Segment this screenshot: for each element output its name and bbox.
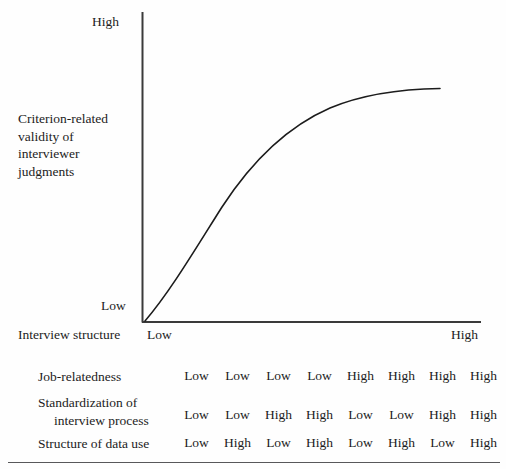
- row-label-line1: Standardization of: [38, 395, 137, 410]
- y-axis-low-label: Low: [101, 297, 126, 314]
- x-axis-title: Interview structure: [18, 326, 120, 343]
- cell: High: [299, 435, 340, 451]
- table-row: Standardization of interview process Low…: [0, 398, 506, 428]
- cell: Low: [299, 368, 340, 384]
- cell: Low: [422, 435, 463, 451]
- cell: Low: [258, 435, 299, 451]
- cell: High: [217, 435, 258, 451]
- row-label-structure-of-data-use: Structure of data use: [38, 435, 183, 453]
- bottom-rule: [8, 462, 500, 463]
- cell: High: [422, 368, 463, 384]
- cell: Low: [258, 368, 299, 384]
- x-axis-low-label: Low: [147, 326, 172, 343]
- cell: Low: [340, 407, 381, 423]
- cell: High: [381, 368, 422, 384]
- row-label-line2: interview process: [38, 412, 183, 430]
- condition-table: Job-relatedness Low Low Low Low High Hig…: [0, 362, 506, 469]
- cell: High: [422, 407, 463, 423]
- row-label-job-relatedness: Job-relatedness: [38, 368, 183, 386]
- cell: Low: [381, 407, 422, 423]
- cell: Low: [176, 368, 217, 384]
- cell: High: [463, 368, 504, 384]
- row-values: Low Low Low Low High High High High: [176, 368, 506, 388]
- x-axis-high-label: High: [451, 326, 478, 343]
- y-axis-high-label: High: [92, 13, 119, 30]
- cell: High: [463, 435, 504, 451]
- table-row: Structure of data use Low High Low High …: [0, 435, 506, 465]
- row-values: Low High Low High Low High Low High: [176, 435, 506, 455]
- cell: Low: [340, 435, 381, 451]
- cell: Low: [176, 407, 217, 423]
- row-label-line1: Job-relatedness: [38, 369, 121, 384]
- cell: Low: [217, 368, 258, 384]
- cell: High: [340, 368, 381, 384]
- cell: Low: [176, 435, 217, 451]
- cell: High: [381, 435, 422, 451]
- row-values: Low Low High High Low Low High High: [176, 407, 506, 427]
- row-label-standardization: Standardization of interview process: [38, 394, 183, 429]
- cell: High: [299, 407, 340, 423]
- cell: High: [258, 407, 299, 423]
- cell: High: [463, 407, 504, 423]
- y-axis-title: Criterion-related validity of interviewe…: [18, 110, 136, 180]
- row-label-line1: Structure of data use: [38, 436, 149, 451]
- plot-area: High Low Criterion-related validity of i…: [0, 0, 506, 360]
- cell: Low: [217, 407, 258, 423]
- figure-container: High Low Criterion-related validity of i…: [0, 0, 506, 469]
- validity-curve: [145, 89, 440, 322]
